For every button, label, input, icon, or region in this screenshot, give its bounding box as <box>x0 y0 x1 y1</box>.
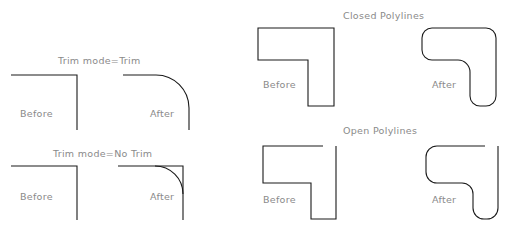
after-open-polyline-filleted <box>426 146 498 219</box>
after-label: After <box>150 108 174 119</box>
fillet-diagram: Trim mode=Trim Before After Trim mode=No… <box>0 0 507 229</box>
before-label: Before <box>263 194 296 205</box>
after-label: After <box>150 191 174 202</box>
before-open-polyline <box>263 146 336 219</box>
before-label: Before <box>263 79 296 90</box>
panel-trim-mode-no-trim: Trim mode=No Trim Before After <box>11 148 183 220</box>
after-label: After <box>432 194 456 205</box>
panel-title: Closed Polylines <box>343 10 424 21</box>
before-corner <box>11 75 77 130</box>
before-label: Before <box>20 108 53 119</box>
panel-title: Open Polylines <box>343 125 417 136</box>
after-closed-polyline-filleted <box>422 28 496 106</box>
after-filleted-corner <box>123 75 189 130</box>
after-label: After <box>432 79 456 90</box>
panel-title: Trim mode=Trim <box>57 55 141 66</box>
before-closed-polyline <box>258 28 334 106</box>
panel-trim-mode-trim: Trim mode=Trim Before After <box>11 55 189 130</box>
panel-closed-polylines: Closed Polylines Before After <box>258 10 496 106</box>
before-label: Before <box>20 191 53 202</box>
panel-title: Trim mode=No Trim <box>52 148 152 159</box>
panel-open-polylines: Open Polylines Before After <box>263 125 498 219</box>
